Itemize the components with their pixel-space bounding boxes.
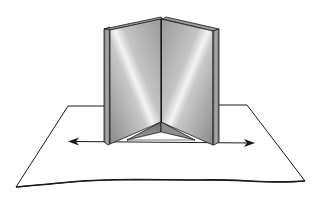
left-mirror <box>110 19 161 144</box>
right-mirror-edge <box>213 29 219 145</box>
mirror-diagram <box>0 0 325 197</box>
left-mirror-edge <box>104 27 110 145</box>
diagram-canvas <box>0 0 325 197</box>
